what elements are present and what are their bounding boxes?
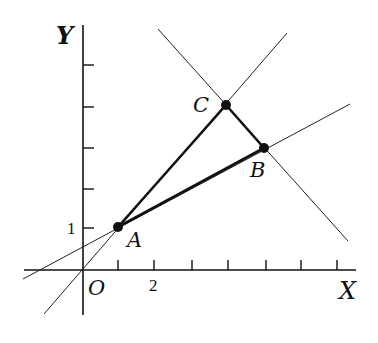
x-ticks bbox=[118, 260, 337, 270]
point-b bbox=[259, 143, 269, 153]
point-b-label: B bbox=[249, 158, 265, 182]
y-ticks bbox=[83, 65, 94, 228]
triangle-diagram: Y X O 2 1 A B C bbox=[0, 0, 378, 343]
y-tick-label-1: 1 bbox=[67, 219, 76, 238]
y-axis-label: Y bbox=[56, 21, 76, 50]
x-axis-label: X bbox=[337, 277, 357, 305]
point-a bbox=[113, 222, 123, 232]
point-a-label: A bbox=[125, 228, 142, 252]
x-tick-label-2: 2 bbox=[149, 276, 158, 295]
origin-label: O bbox=[88, 276, 105, 300]
point-c-label: C bbox=[193, 93, 209, 117]
point-c bbox=[221, 100, 231, 110]
triangle-abc bbox=[118, 105, 264, 227]
line-ab bbox=[23, 104, 350, 279]
